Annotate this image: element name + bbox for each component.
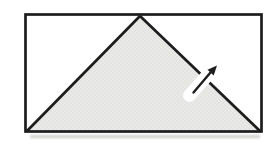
geometry-diagram (0, 0, 272, 145)
scan-shadow (30, 135, 260, 138)
figure-canvas (0, 0, 272, 145)
shaded-triangle-texture (27, 16, 261, 132)
